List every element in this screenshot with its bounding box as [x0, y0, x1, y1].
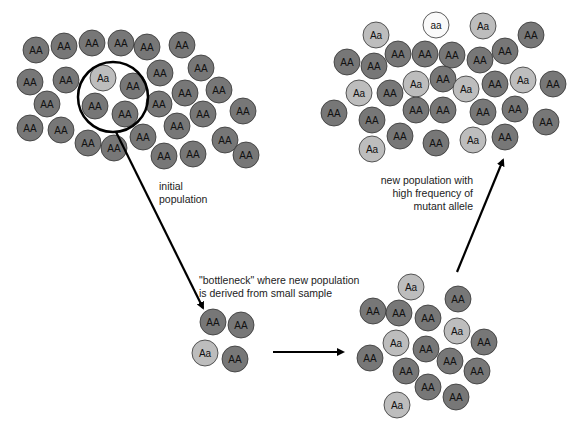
genotype-label: AA [477, 337, 491, 348]
genotype-label: AA [196, 109, 210, 120]
genotype-label: AA [152, 99, 166, 110]
label-line: population [159, 193, 207, 206]
genotype-label: AA [524, 30, 538, 41]
regrown-population-group: AaAAAAAAAAAaAaAAAAAAAAAAAAAAAAAa [357, 274, 497, 418]
label-line: is derived from small sample [199, 287, 359, 300]
genotype-label: AA [239, 150, 253, 161]
genotype-label: AA [126, 81, 140, 92]
genotype-label: aa [430, 20, 442, 31]
bottleneck-label: "bottleneck" where new population is der… [199, 274, 359, 300]
genotype-label: AA [366, 306, 380, 317]
genotype-label: Aa [370, 30, 383, 41]
genotype-label: AA [81, 138, 95, 149]
genotype-label: AA [445, 50, 459, 61]
genotype-label: AA [392, 308, 406, 319]
label-line: initial [159, 180, 207, 193]
genotype-label: AA [470, 366, 484, 377]
genotype-label: AA [383, 88, 397, 99]
genotype-label: Aa [517, 75, 530, 86]
genotype-label: AA [29, 45, 43, 56]
genotype-label: AA [498, 132, 512, 143]
genotype-label: AA [228, 354, 242, 365]
new-population-group: AaaaAaAAAAAAAAAAAAAAAAAaAAAaAAAaAAAaAAAA… [321, 12, 566, 162]
new-population-label: new population with high frequency of mu… [360, 174, 473, 213]
genetic-bottleneck-diagram: AAAAAAAAAAAAAAAAAAAaAAAAAAAAAAAAAAAAAAAA… [0, 0, 579, 435]
genotype-label: AA [236, 106, 250, 117]
genotype-label: Aa [199, 348, 212, 359]
genotype-label: AA [451, 294, 465, 305]
genotype-label: AA [391, 49, 405, 60]
genotype-label: AA [136, 132, 150, 143]
initial-population-group: AAAAAAAAAAAAAAAAAAAaAAAAAAAAAAAAAAAAAAAA… [17, 30, 259, 169]
genotype-label: AA [498, 46, 512, 57]
genotype-label: Aa [390, 338, 403, 349]
genotype-label: AA [436, 74, 450, 85]
genotype-label: Aa [97, 73, 110, 84]
genotype-label: AA [340, 57, 354, 68]
genotype-label: AA [367, 61, 381, 72]
diagram-canvas: AAAAAAAAAAAAAAAAAAAaAAAAAAAAAAAAAAAAAAAA… [0, 0, 579, 435]
genotype-label: AA [118, 109, 132, 120]
label-line: mutant allele [360, 200, 473, 213]
genotype-label: AA [206, 317, 220, 328]
genotype-label: AA [218, 135, 232, 146]
genotype-label: AA [178, 88, 192, 99]
genotype-label: Aa [460, 84, 473, 95]
genotype-label: AA [54, 125, 68, 136]
bottleneck-sample-group: AAAAAaAA [192, 309, 254, 372]
genotype-label: AA [436, 105, 450, 116]
genotype-label: AA [153, 68, 167, 79]
genotype-label: AA [186, 149, 200, 160]
genotype-label: AA [114, 38, 128, 49]
genotype-label: AA [418, 49, 432, 60]
genotype-label: Aa [451, 326, 464, 337]
genotype-label: AA [421, 382, 435, 393]
genotype-label: AA [170, 121, 184, 132]
genotype-label: AA [546, 79, 560, 90]
genotype-label: Aa [353, 88, 366, 99]
genotype-label: AA [443, 356, 457, 367]
genotype-label: AA [476, 107, 490, 118]
genotype-label: AA [399, 366, 413, 377]
genotype-label: AA [85, 38, 99, 49]
genotype-label: AA [59, 75, 73, 86]
genotype-label: AA [365, 115, 379, 126]
label-line: high frequency of [360, 187, 473, 200]
label-line: "bottleneck" where new population [199, 274, 359, 287]
genotype-label: AA [488, 79, 502, 90]
genotype-label: AA [419, 344, 433, 355]
genotype-label: AA [473, 55, 487, 66]
genotype-label: AA [429, 138, 443, 149]
genotype-label: Aa [410, 79, 423, 90]
genotype-label: AA [23, 77, 37, 88]
genotype-label: AA [508, 104, 522, 115]
genotype-label: AA [140, 42, 154, 53]
genotype-label: AA [539, 117, 553, 128]
genotype-label: AA [175, 40, 189, 51]
initial-population-label: initial population [159, 180, 207, 206]
genotype-label: AA [327, 108, 341, 119]
arrows-group [116, 132, 503, 352]
genotype-label: AA [40, 99, 54, 110]
genotype-label: AA [234, 320, 248, 331]
genotype-label: Aa [366, 144, 379, 155]
genotype-label: AA [363, 353, 377, 364]
genotype-label: AA [194, 63, 208, 74]
genotype-label: Aa [391, 400, 404, 411]
genotype-label: AA [57, 41, 71, 52]
genotype-label: AA [449, 392, 463, 403]
genotype-label: AA [421, 313, 435, 324]
genotype-label: Aa [405, 282, 418, 293]
label-line: new population with [360, 174, 473, 187]
genotype-label: AA [88, 101, 102, 112]
genotype-label: AA [393, 131, 407, 142]
genotype-label: AA [409, 105, 423, 116]
genotype-label: AA [212, 85, 226, 96]
genotype-label: AA [157, 151, 171, 162]
genotype-label: Aa [467, 135, 480, 146]
genotype-label: AA [23, 123, 37, 134]
genotype-label: Aa [477, 21, 490, 32]
genotype-label: AA [107, 143, 121, 154]
